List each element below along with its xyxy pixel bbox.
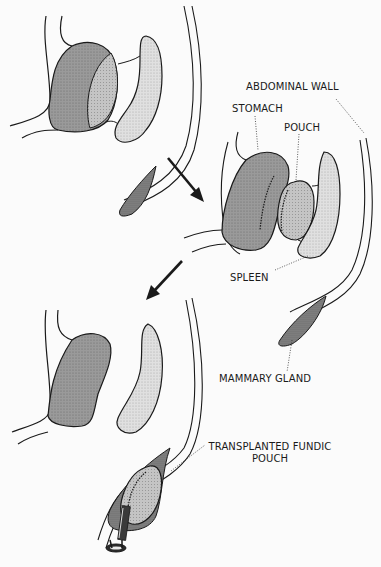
mammary-gland-shape	[279, 296, 326, 346]
label-transplanted-fundic-pouch: TRANSPLANTED FUNDIC POUCH	[196, 441, 344, 465]
stage-3-transplanted	[12, 298, 202, 552]
stage-1-original	[10, 6, 201, 216]
label-spleen: SPLEEN	[230, 272, 269, 284]
label-pouch: POUCH	[284, 122, 320, 134]
label-transplanted-line2: POUCH	[196, 453, 344, 465]
label-stomach: STOMACH	[232, 103, 283, 115]
label-abdominal-wall: ABDOMINAL WALL	[246, 81, 339, 93]
spleen-shape	[115, 36, 162, 142]
label-transplanted-line1: TRANSPLANTED FUNDIC	[196, 441, 344, 453]
mammary-gland-shape	[120, 166, 157, 216]
diagram-canvas: ABDOMINAL WALL STOMACH POUCH SPLEEN MAMM…	[0, 0, 381, 567]
arrow-down-left	[146, 261, 182, 300]
spleen-shape	[117, 324, 162, 433]
arrow-down-right	[168, 158, 204, 202]
stomach-shape	[48, 334, 111, 427]
stage-2-pouch	[184, 132, 372, 346]
label-mammary-gland: MAMMARY GLAND	[219, 373, 311, 385]
